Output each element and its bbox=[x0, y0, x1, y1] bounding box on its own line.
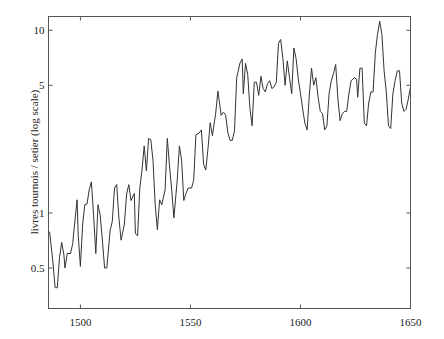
y-tick-label: 10 bbox=[34, 24, 46, 36]
series-layer bbox=[50, 21, 411, 287]
y-axis-title: livres tournois / setier (log scale) bbox=[28, 89, 41, 234]
x-tick-label: 1500 bbox=[69, 316, 92, 328]
y-tick-label: 0.5 bbox=[31, 262, 45, 274]
plot-frame bbox=[49, 17, 411, 309]
y-tick-label: 5 bbox=[39, 79, 45, 91]
x-tick-label: 1600 bbox=[289, 316, 312, 328]
x-tick-label: 1550 bbox=[179, 316, 202, 328]
x-tick-label: 1650 bbox=[400, 316, 423, 328]
y-axis: 0.51510 bbox=[31, 24, 411, 274]
chart: 1500155016001650 0.51510 livres tournois… bbox=[0, 0, 444, 339]
series-line-0 bbox=[50, 21, 411, 287]
